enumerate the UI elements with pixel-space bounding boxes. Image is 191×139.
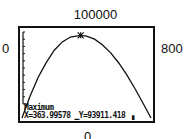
ymin-label: 0	[0, 130, 175, 139]
ymax-label: 100000	[0, 8, 191, 21]
y-value: Y=93911.418	[79, 111, 125, 120]
xmax-label: 800	[161, 42, 183, 55]
xmin-label: 0	[2, 42, 9, 55]
cursor-mark: ▗	[125, 111, 133, 120]
x-value: X=363.99578	[24, 111, 70, 120]
separator: ▁	[70, 111, 78, 120]
calculator-graph-screen: Maximum X=363.99578 ▁Y=93911.418 ▗	[18, 26, 155, 123]
calc-result-values: X=363.99578 ▁Y=93911.418 ▗	[24, 112, 134, 120]
